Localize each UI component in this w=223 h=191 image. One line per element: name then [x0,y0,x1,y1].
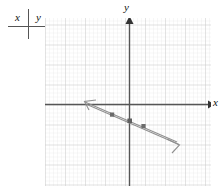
plot-svg [45,18,211,186]
major-gridlines [45,18,211,186]
coordinate-plot [45,18,211,186]
x-axis-label: x [213,96,218,108]
table-header-x: x [8,9,27,25]
data-point [110,113,114,117]
data-point [141,124,145,128]
table-horizontal-rule [8,26,48,27]
y-axis-label: y [124,1,129,13]
xy-table: x y [8,9,48,39]
table-vertical-rule [28,9,29,39]
data-point [127,119,132,124]
